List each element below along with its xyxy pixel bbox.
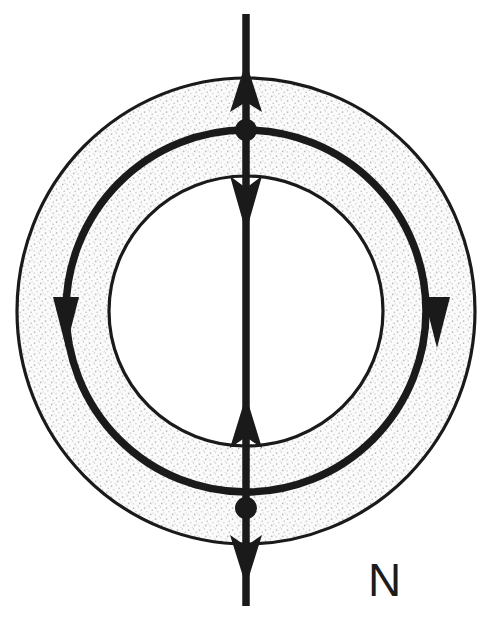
figure-root: N [0, 0, 486, 618]
junction-dot-bottom-icon [235, 497, 257, 519]
junction-dot-top-icon [235, 119, 257, 141]
turns-label: N [368, 554, 402, 606]
toroid-field-diagram: N [0, 0, 486, 618]
